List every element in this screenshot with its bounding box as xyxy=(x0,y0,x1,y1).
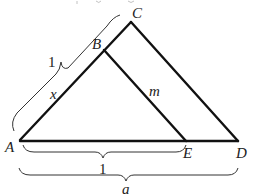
cropped-text-fragments xyxy=(77,1,134,4)
brace-label-ac: 1 xyxy=(48,54,56,70)
segment-cd xyxy=(131,22,238,141)
label-d: D xyxy=(235,145,247,161)
brace-ad xyxy=(19,168,238,181)
segment-ac xyxy=(20,22,131,140)
label-a: A xyxy=(4,139,15,155)
brace-ac xyxy=(13,15,120,131)
label-b: B xyxy=(92,36,101,52)
label-x: x xyxy=(49,86,57,102)
brace-ae xyxy=(23,145,186,158)
segment-be xyxy=(104,50,186,141)
label-m: m xyxy=(149,83,160,99)
label-e: E xyxy=(182,145,192,161)
similar-triangles-diagram: A B C D E x m 1 1 a xyxy=(0,0,253,196)
brace-label-ae: 1 xyxy=(99,161,107,177)
brace-label-ad: a xyxy=(122,181,130,196)
label-c: C xyxy=(132,5,143,21)
